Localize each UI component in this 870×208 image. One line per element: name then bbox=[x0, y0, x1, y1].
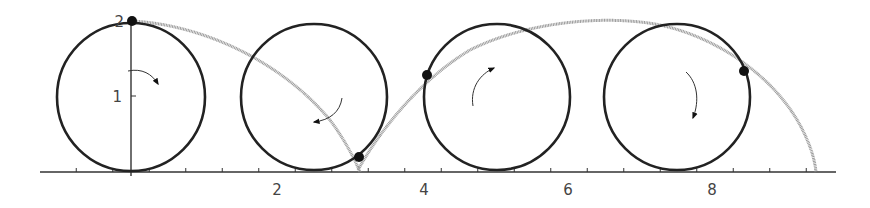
point bbox=[354, 152, 364, 162]
circle-2 bbox=[241, 24, 387, 170]
traced-curve bbox=[131, 20, 816, 172]
y-tick-label: 1 bbox=[112, 88, 122, 106]
point bbox=[739, 66, 749, 76]
x-tick-label: 6 bbox=[563, 181, 573, 199]
rotation-arrow-icon bbox=[472, 68, 494, 106]
x-tick-label: 2 bbox=[272, 181, 282, 199]
y-axis bbox=[131, 20, 136, 176]
rotation-arrow-icon bbox=[686, 72, 697, 118]
point bbox=[422, 70, 432, 80]
rotation-arrow-icon bbox=[128, 70, 158, 84]
rotation-arrow-icon bbox=[314, 98, 342, 122]
circle-3 bbox=[424, 24, 570, 170]
x-tick-label: 8 bbox=[707, 181, 717, 199]
point bbox=[127, 16, 137, 26]
rotation-arrows bbox=[128, 68, 697, 122]
circles bbox=[57, 23, 750, 171]
y-tick-label: 2 bbox=[114, 13, 124, 31]
x-axis bbox=[40, 168, 836, 172]
rolling-circles-diagram: 2 4 6 8 1 2 bbox=[0, 0, 870, 208]
circle-4 bbox=[604, 24, 750, 170]
x-tick-label: 4 bbox=[419, 181, 429, 199]
